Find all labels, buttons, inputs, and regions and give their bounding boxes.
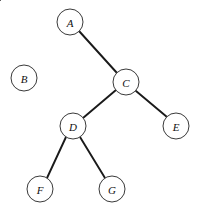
tree-node-d[interactable]: D bbox=[60, 113, 86, 139]
tree-node-f[interactable]: F bbox=[27, 176, 53, 202]
node-label: C bbox=[122, 77, 130, 89]
node-label: B bbox=[21, 73, 28, 85]
node-label: E bbox=[172, 121, 180, 133]
tree-node-b[interactable]: B bbox=[11, 65, 37, 91]
tree-node-e[interactable]: E bbox=[163, 113, 189, 139]
binary-tree-diagram: A B C D E F G bbox=[0, 0, 207, 215]
node-label: G bbox=[108, 184, 116, 196]
node-label: A bbox=[66, 17, 74, 29]
node-label: F bbox=[36, 184, 44, 196]
tree-node-a[interactable]: A bbox=[57, 9, 83, 35]
tree-node-c[interactable]: C bbox=[113, 69, 139, 95]
tree-node-g[interactable]: G bbox=[99, 176, 125, 202]
node-label: D bbox=[68, 121, 77, 133]
